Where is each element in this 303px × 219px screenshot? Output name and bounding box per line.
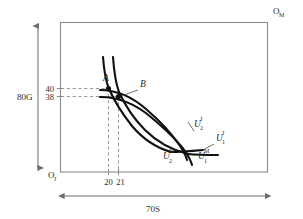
curve-label-u2-m-superscript: M bbox=[169, 148, 175, 154]
point-b-marker bbox=[116, 94, 121, 99]
vertical-axis-label: 80G bbox=[17, 92, 33, 102]
curve-label-u1-m-superscript: M bbox=[204, 148, 210, 154]
curve-label-u1-m-subscript: 1 bbox=[204, 158, 207, 164]
curve-label-u1-j-subscript: 1 bbox=[222, 139, 225, 145]
curve-label-u2-m-subscript: 2 bbox=[169, 158, 172, 164]
horizontal-axis-label: 70S bbox=[146, 204, 160, 214]
edgeworth-box-figure: 80G 70S O J O M 40 38 20 21 A B U 2 J U bbox=[0, 0, 303, 219]
y-tick-label-38: 38 bbox=[46, 92, 55, 102]
point-b-label: B bbox=[140, 79, 146, 89]
curve-label-u2-j-subscript: 2 bbox=[200, 125, 203, 131]
diagram-canvas: 80G 70S O J O M 40 38 20 21 A B U 2 J U bbox=[0, 0, 303, 219]
background bbox=[0, 0, 303, 219]
x-tick-label-21: 21 bbox=[116, 177, 125, 187]
origin-right-subscript: M bbox=[279, 12, 285, 18]
point-a-label: A bbox=[102, 73, 109, 83]
x-tick-label-20: 20 bbox=[104, 177, 113, 187]
point-a-marker bbox=[106, 86, 111, 91]
